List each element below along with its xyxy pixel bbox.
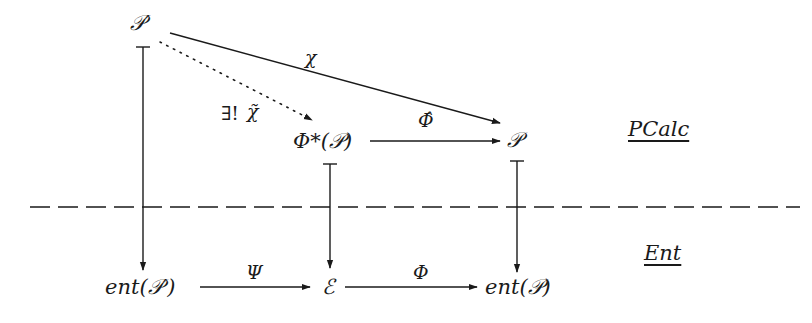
label-phi: Φ	[413, 263, 429, 282]
label-psi: Ψ	[246, 263, 263, 282]
label-exists-unique: ∃!	[221, 104, 239, 123]
node-e: ℰ	[322, 277, 335, 298]
node-phi-star-p: Φ*(𝒫)	[293, 131, 352, 152]
label-phi-hat: Φ̂	[418, 111, 434, 130]
layer-label-ent: Ent	[644, 243, 681, 264]
arrow-chi	[170, 33, 500, 123]
node-p-prime: 𝒫′	[130, 13, 150, 34]
node-ent-p-prime: ent(𝒫′)	[105, 277, 176, 298]
node-p: 𝒫	[507, 130, 522, 151]
layer-label-pcalc: PCalc	[628, 119, 689, 140]
label-chi-tilde: χ̃	[247, 102, 259, 121]
node-ent-p: ent(𝒫)	[485, 277, 551, 298]
label-chi: χ	[305, 48, 317, 67]
